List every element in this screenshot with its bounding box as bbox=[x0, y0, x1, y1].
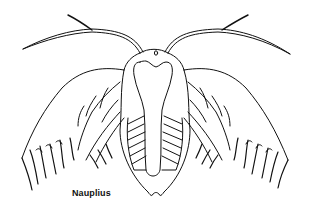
nauplius-drawing bbox=[0, 0, 311, 214]
figure-caption: Nauplius bbox=[72, 188, 111, 198]
right-antenna bbox=[184, 69, 288, 188]
left-antenna bbox=[22, 69, 124, 190]
left-antennule bbox=[23, 15, 143, 53]
naupliar-eye bbox=[154, 51, 157, 55]
left-mandible bbox=[86, 112, 124, 168]
right-segments bbox=[162, 116, 183, 170]
left-segments bbox=[127, 116, 146, 170]
trunk-outline bbox=[120, 70, 190, 195]
nauplius-illustration bbox=[0, 0, 311, 214]
right-antennule bbox=[165, 15, 290, 54]
